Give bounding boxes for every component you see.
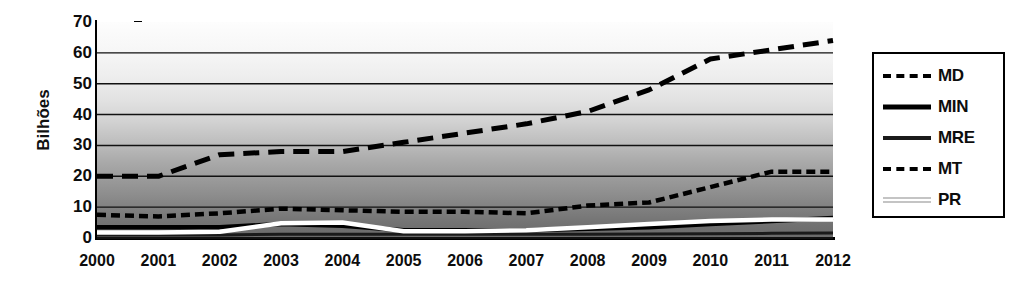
x-tick-label: 2005 <box>369 252 439 270</box>
x-tick-label: 2001 <box>123 252 193 270</box>
y-tick-label: 0 <box>48 228 92 248</box>
legend-swatch-md-icon <box>883 69 931 83</box>
legend-line-sample <box>883 104 931 109</box>
legend-swatch-mt-icon <box>883 162 931 176</box>
legend-label: MT <box>938 159 962 179</box>
y-tick-label: 10 <box>48 197 92 217</box>
legend-item-mre[interactable]: MRE <box>874 122 1003 153</box>
y-axis-tick-labels: 010203040506070 <box>44 0 92 292</box>
legend-line-sample <box>883 197 931 202</box>
legend-label: PR <box>938 190 961 210</box>
x-axis-tick-labels: 2000200120022003200420052006200720082009… <box>0 252 1021 284</box>
legend-swatch-mre-icon <box>883 131 931 145</box>
x-tick-label: 2003 <box>246 252 316 270</box>
y-tick-label: 20 <box>48 166 92 186</box>
legend-label: MD <box>938 66 964 86</box>
x-tick-label: 2002 <box>185 252 255 270</box>
chart-figure: Bilhões 010203040506070 2000200120022003… <box>0 0 1021 292</box>
x-tick-label: 2007 <box>491 252 561 270</box>
x-tick-label: 2010 <box>675 252 745 270</box>
x-tick-label: 2000 <box>62 252 132 270</box>
y-tick-label: 40 <box>48 105 92 125</box>
y-tick-label: 30 <box>48 135 92 155</box>
series-line-md <box>97 41 833 177</box>
plot-area <box>97 22 833 238</box>
legend-swatch-min-icon <box>883 100 931 114</box>
legend-item-mt[interactable]: MT <box>874 153 1003 184</box>
legend-item-md[interactable]: MD <box>874 60 1003 91</box>
legend-label: MRE <box>938 128 975 148</box>
y-tick-label: 70 <box>48 12 92 32</box>
series-canvas <box>97 22 833 238</box>
x-tick-label: 2009 <box>614 252 684 270</box>
legend-item-min[interactable]: MIN <box>874 91 1003 122</box>
y-tick-label: 50 <box>48 74 92 94</box>
legend-line-sample <box>883 167 931 171</box>
x-tick-label: 2004 <box>307 252 377 270</box>
legend-line-sample <box>883 74 931 78</box>
x-tick-label: 2012 <box>798 252 868 270</box>
x-tick-label: 2011 <box>737 252 807 270</box>
series-line-mt <box>97 172 833 217</box>
legend-line-sample <box>883 136 931 140</box>
x-tick-label: 2008 <box>553 252 623 270</box>
x-tick-label: 2006 <box>430 252 500 270</box>
chart-legend: MDMINMREMTPR <box>872 52 1005 218</box>
legend-label: MIN <box>938 97 968 117</box>
y-tick-label: 60 <box>48 43 92 63</box>
legend-swatch-pr-icon <box>883 193 931 207</box>
legend-item-pr[interactable]: PR <box>874 184 1003 215</box>
